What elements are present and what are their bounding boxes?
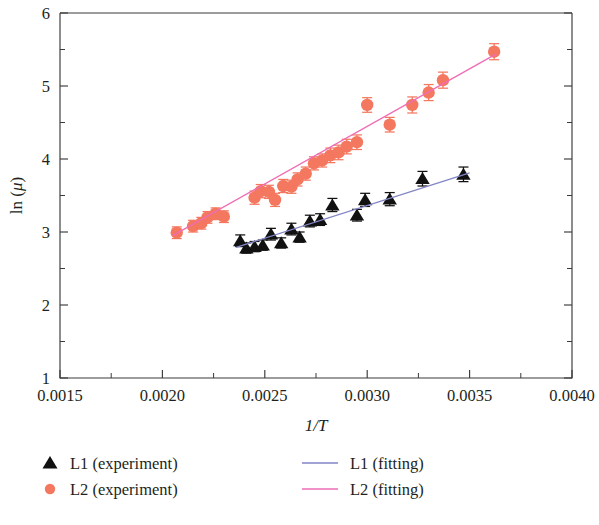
scatter-plot: 1234560.00150.00200.00250.00300.00350.00… — [0, 0, 599, 525]
y-tick-label: 6 — [42, 4, 50, 23]
legend-label: L2 (experiment) — [70, 480, 178, 499]
y-axis-title: ln (μ) — [7, 177, 26, 214]
data-point-circle — [300, 167, 312, 179]
legend-layer: L1 (experiment)L2 (experiment)L1 (fittin… — [43, 454, 424, 499]
y-tick-label: 2 — [42, 296, 50, 315]
legend-label: L1 (fitting) — [350, 454, 424, 473]
data-point-triangle — [358, 193, 372, 205]
data-point-circle — [218, 210, 230, 222]
legend-label: L2 (fitting) — [350, 480, 424, 499]
data-point-circle — [384, 118, 396, 130]
data-point-circle — [488, 45, 500, 57]
x-axis-title: 1/T — [305, 416, 329, 435]
legend-symbol-triangle — [43, 456, 58, 469]
plot-frame — [60, 13, 572, 378]
y-tick-label: 3 — [42, 223, 50, 242]
x-tick-label: 0.0020 — [140, 386, 185, 405]
data-layer — [171, 44, 501, 254]
legend-symbol-circle — [45, 484, 55, 494]
figure-container: 1234560.00150.00200.00250.00300.00350.00… — [0, 0, 599, 525]
x-tick-label: 0.0035 — [447, 386, 492, 405]
y-tick-label: 4 — [42, 150, 50, 169]
data-point-circle — [351, 136, 363, 148]
x-tick-label: 0.0015 — [37, 386, 82, 405]
data-point-triangle — [415, 172, 429, 184]
x-tick-label: 0.0025 — [242, 386, 287, 405]
x-tick-label: 0.0030 — [345, 386, 390, 405]
legend-label: L1 (experiment) — [70, 454, 178, 473]
y-tick-label: 5 — [42, 77, 50, 96]
data-point-circle — [361, 99, 373, 111]
data-point-triangle — [325, 198, 339, 210]
fit-line — [236, 173, 469, 247]
x-tick-label: 0.0040 — [549, 386, 594, 405]
data-point-circle — [269, 194, 281, 206]
axes-layer: 1234560.00150.00200.00250.00300.00350.00… — [7, 4, 595, 435]
